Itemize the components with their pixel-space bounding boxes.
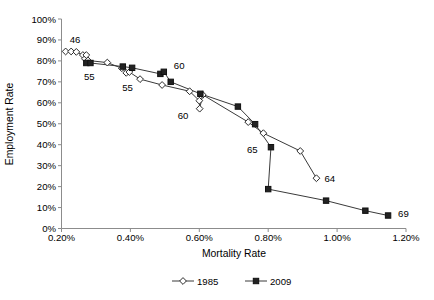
data-point-2009 <box>129 65 134 70</box>
data-point-2009 <box>385 213 390 218</box>
point-annotation: 46 <box>70 34 81 45</box>
point-annotation: 69 <box>398 208 409 219</box>
point-annotations: 4655556064606569 <box>70 34 409 218</box>
y-tick-label: 40% <box>37 139 57 150</box>
x-tick-label: 0.40% <box>117 232 145 243</box>
y-axis-tick-marks <box>58 19 62 229</box>
y-tick-label: 10% <box>37 202 57 213</box>
data-point-1985 <box>137 76 144 83</box>
legend-item-2009: 2009 <box>245 276 291 287</box>
data-point-2009 <box>120 64 125 69</box>
x-axis-title-text: Mortality Rate <box>202 248 266 259</box>
data-point-1985 <box>313 175 320 182</box>
data-point-2009 <box>168 79 173 84</box>
y-tick-label: 20% <box>37 181 57 192</box>
data-point-2009 <box>266 186 271 191</box>
point-annotation: 65 <box>247 144 258 155</box>
y-tick-label: 30% <box>37 160 57 171</box>
y-tick-label: 60% <box>37 97 57 108</box>
y-tick-label: 90% <box>37 34 57 45</box>
data-point-2009 <box>161 69 166 74</box>
x-tick-label: 0.60% <box>186 232 214 243</box>
point-annotation: 55 <box>84 71 95 82</box>
series-line-1985 <box>66 51 317 178</box>
point-annotation: 60 <box>178 110 189 121</box>
data-point-2009 <box>268 145 273 150</box>
x-axis-title: Mortality Rate <box>202 248 266 259</box>
x-tick-label: 1.00% <box>323 232 351 243</box>
legend-label: 2009 <box>270 276 291 287</box>
y-axis-title: Employment Rate <box>4 82 15 165</box>
y-tick-label: 80% <box>37 55 57 66</box>
legend-marker-1985 <box>180 278 187 285</box>
data-point-2009 <box>363 208 368 213</box>
data-point-2009 <box>323 198 328 203</box>
legend-label: 1985 <box>197 276 218 287</box>
point-annotation: 64 <box>324 173 335 184</box>
data-point-2009 <box>235 104 240 109</box>
y-axis-title-text: Employment Rate <box>4 82 15 165</box>
data-point-1985 <box>73 48 80 55</box>
data-point-2009 <box>88 60 93 65</box>
chart-container: Employment Rate 0%10%20%30%40%50%60%70%8… <box>0 0 434 300</box>
point-annotation: 60 <box>174 60 185 71</box>
x-tick-label: 0.20% <box>48 232 76 243</box>
data-point-1985 <box>196 105 203 112</box>
data-point-1985 <box>260 130 267 137</box>
legend-item-1985: 1985 <box>172 276 218 287</box>
data-point-2009 <box>252 121 257 126</box>
x-axis-tick-labels: 0.20%0.40%0.60%0.80%1.00%1.20% <box>48 232 420 243</box>
series-markers <box>62 48 391 218</box>
data-point-1985 <box>159 82 166 89</box>
point-annotation: 55 <box>122 82 133 93</box>
legend-marker-2009 <box>253 278 258 283</box>
x-tick-label: 1.20% <box>392 232 420 243</box>
series-lines <box>66 51 388 215</box>
y-tick-label: 70% <box>37 76 57 87</box>
y-tick-label: 50% <box>37 118 57 129</box>
mortality-employment-scatter-chart: Employment Rate 0%10%20%30%40%50%60%70%8… <box>0 0 434 300</box>
y-axis-tick-labels: 0%10%20%30%40%50%60%70%80%90%100% <box>31 14 56 235</box>
data-point-2009 <box>198 91 203 96</box>
data-point-1985 <box>297 148 304 155</box>
x-tick-label: 0.80% <box>255 232 283 243</box>
chart-legend: 19852009 <box>172 276 291 287</box>
x-axis-tick-marks <box>62 229 407 233</box>
y-tick-label: 100% <box>31 14 56 25</box>
